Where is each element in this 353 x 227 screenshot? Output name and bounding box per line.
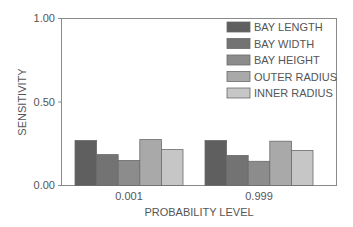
legend-label-bay-width: BAY WIDTH bbox=[254, 38, 314, 50]
bar-inner-radius-0.999 bbox=[291, 150, 313, 185]
legend-swatch-outer-radius bbox=[227, 72, 250, 82]
bar-inner-radius-0.001 bbox=[161, 150, 183, 186]
y-tick-label-mid: 0.50 bbox=[34, 96, 55, 108]
bar-bay-height-0.001 bbox=[118, 160, 140, 185]
x-tick-label-2: 0.999 bbox=[245, 190, 273, 202]
legend-label-outer-radius: OUTER RADIUS bbox=[254, 71, 337, 83]
y-tick-label-top: 1.00 bbox=[34, 12, 55, 24]
bar-outer-radius-0.001 bbox=[140, 140, 162, 186]
y-tick-label-bottom: 0.00 bbox=[34, 179, 55, 191]
bar-outer-radius-0.999 bbox=[270, 141, 292, 185]
legend-swatch-bay-width bbox=[227, 39, 250, 49]
legend-swatch-bay-height bbox=[227, 55, 250, 65]
legend-label-bay-height: BAY HEIGHT bbox=[254, 54, 320, 66]
legend-label-inner-radius: INNER RADIUS bbox=[254, 87, 333, 99]
x-axis-title: PROBABILITY LEVEL bbox=[144, 206, 253, 218]
bar-bay-width-0.001 bbox=[97, 155, 119, 186]
y-axis: 1.00 0.50 0.00 bbox=[34, 12, 62, 191]
legend-swatch-bay-length bbox=[227, 22, 250, 32]
legend: BAY LENGTHBAY WIDTHBAY HEIGHTOUTER RADIU… bbox=[227, 21, 337, 99]
sensitivity-bar-chart: 1.00 0.50 0.00 SENSITIVITY 0.001 0.999 P… bbox=[0, 0, 353, 227]
bar-bay-length-0.999 bbox=[205, 140, 227, 185]
bar-bay-length-0.001 bbox=[75, 140, 97, 185]
bar-bay-height-0.999 bbox=[248, 161, 270, 185]
bars-group bbox=[75, 140, 313, 186]
legend-label-bay-length: BAY LENGTH bbox=[254, 21, 323, 33]
y-axis-title: SENSITIVITY bbox=[16, 68, 28, 136]
bar-bay-width-0.999 bbox=[227, 155, 249, 185]
x-tick-label-1: 0.001 bbox=[115, 190, 143, 202]
legend-swatch-inner-radius bbox=[227, 88, 250, 98]
